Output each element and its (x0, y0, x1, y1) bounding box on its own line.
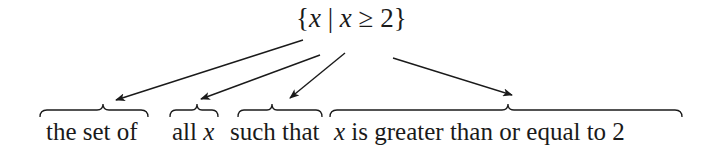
expr-relation: ≥ 2 (359, 3, 394, 33)
expr-variable: x (309, 3, 321, 33)
expr-such-that-bar: | (328, 3, 333, 33)
brace-the-set-of (40, 104, 148, 117)
arrow-to-all-x (201, 55, 320, 99)
arrow-to-set-of (116, 40, 303, 100)
phrase-such-that: such that (230, 118, 320, 146)
underbraces (40, 104, 682, 117)
phrase-condition: x is greater than or equal to 2 (334, 118, 625, 146)
arrows (116, 40, 512, 100)
phrase-all-x: all x (172, 118, 214, 146)
phrase-condition-var: x (334, 118, 345, 145)
arrow-to-such-that (290, 53, 345, 98)
set-builder-expression: {x | x ≥ 2} (296, 3, 407, 34)
brace-condition (330, 104, 682, 117)
arrow-to-condition (393, 58, 512, 95)
brace-all-x (170, 104, 218, 117)
phrase-the-set-of: the set of (46, 118, 138, 146)
expr-variable-2: x (340, 3, 352, 33)
expr-open-brace: { (296, 3, 309, 33)
phrase-condition-text: is greater than or equal to 2 (345, 118, 625, 145)
brace-such-that (238, 104, 322, 117)
expr-close-brace: } (394, 3, 407, 33)
phrase-all-var: x (203, 118, 214, 145)
phrase-all-prefix: all (172, 118, 203, 145)
